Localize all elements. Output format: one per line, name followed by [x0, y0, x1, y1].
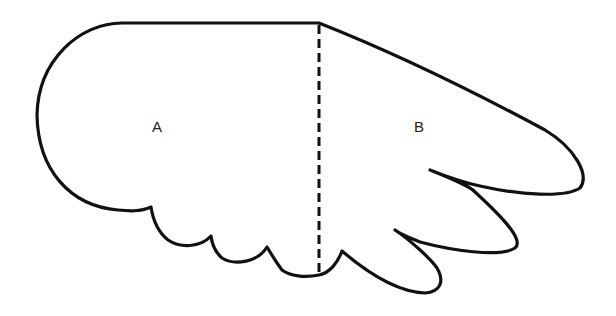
wing-diagram: A B — [0, 0, 616, 316]
region-label-a: A — [152, 118, 162, 135]
wing-outline — [37, 23, 583, 293]
region-label-b: B — [414, 118, 424, 135]
